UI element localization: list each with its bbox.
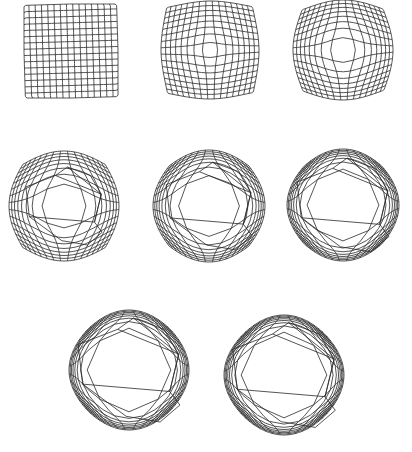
inner-polygon [297,158,389,252]
grid-lines [293,0,393,100]
grid-lines [69,310,189,430]
grid-lines [161,1,259,99]
mesh-panel-7 [61,302,197,438]
inner-polygon [233,323,336,428]
mesh-panel-3 [285,0,401,108]
mesh-panel-2 [153,0,267,107]
grid-lines [224,315,344,435]
grid-lines [287,149,399,261]
inner-polygon [26,167,102,245]
mesh-panel-8 [216,307,352,443]
mesh-panel-1 [16,0,126,106]
mesh-panel-4 [1,143,127,269]
grid-lines [24,4,118,98]
mesh-panel-6 [279,141,407,269]
mesh-panel-5 [145,142,273,270]
grid-lines [9,151,119,261]
